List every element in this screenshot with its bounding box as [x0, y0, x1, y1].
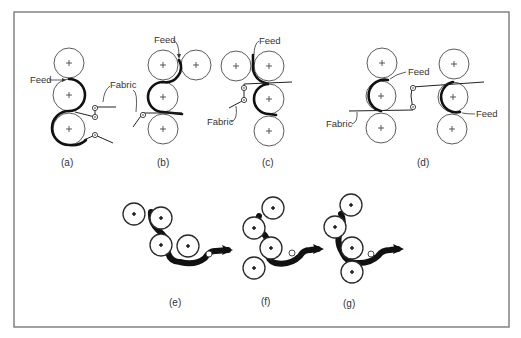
- feed-label: Feed: [154, 34, 176, 45]
- panel-a: Feed Fabric (a): [30, 48, 137, 168]
- fabric-arrow: [103, 86, 110, 102]
- panel-g: (g): [324, 194, 404, 309]
- panel-caption: (c): [262, 157, 274, 168]
- feed-arrow-right: [462, 113, 475, 114]
- guide-roll: [368, 251, 374, 257]
- feed-label: Feed: [259, 35, 281, 46]
- panel-b: Feed (b): [133, 34, 211, 168]
- fabric-arrow: [352, 112, 357, 124]
- fabric-label: Fabric: [326, 118, 353, 129]
- guide-rolls: [92, 105, 97, 137]
- calender-roll-configurations-diagram: Feed Fabric (a) Feed (b): [0, 0, 521, 338]
- feed-label-right: Feed: [476, 108, 498, 119]
- feed-label: Feed: [30, 74, 52, 85]
- guide-roll: [206, 251, 212, 257]
- panel-d: Feed Feed Fabric (d): [326, 48, 498, 168]
- fabric-label: Fabric: [207, 116, 234, 127]
- panel-e: (e): [123, 203, 233, 308]
- arrow-head-icon: [177, 54, 181, 59]
- panel-caption: (f): [261, 296, 270, 307]
- panel-caption: (d): [417, 157, 429, 168]
- panel-caption: (e): [169, 297, 181, 308]
- panel-caption: (b): [157, 157, 169, 168]
- panel-f: (f): [243, 197, 324, 307]
- guide-roll: [289, 250, 295, 256]
- panel-c: Feed Fabric (c): [207, 35, 292, 168]
- panel-caption: (g): [343, 298, 355, 309]
- fabric-label: Fabric: [110, 79, 137, 90]
- feed-label-left: Feed: [408, 66, 430, 77]
- panel-caption: (a): [61, 157, 73, 168]
- fabric-arrow: [133, 90, 137, 112]
